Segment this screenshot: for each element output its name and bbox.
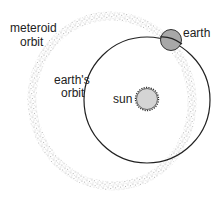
meteoroid-orbit-label-line2: orbit	[20, 35, 44, 49]
sun-icon	[136, 88, 159, 111]
earth-icon	[160, 30, 182, 51]
orbit-diagram: meteroid orbit earth's orbit sun earth	[0, 0, 223, 198]
earth-orbit-label-line2: orbit	[61, 86, 85, 100]
sun-label: sun	[113, 92, 132, 106]
earth-label: earth	[183, 26, 210, 40]
meteoroid-orbit-label-line1: meteroid	[10, 21, 57, 35]
earth-orbit-label-line1: earth's	[54, 73, 90, 87]
